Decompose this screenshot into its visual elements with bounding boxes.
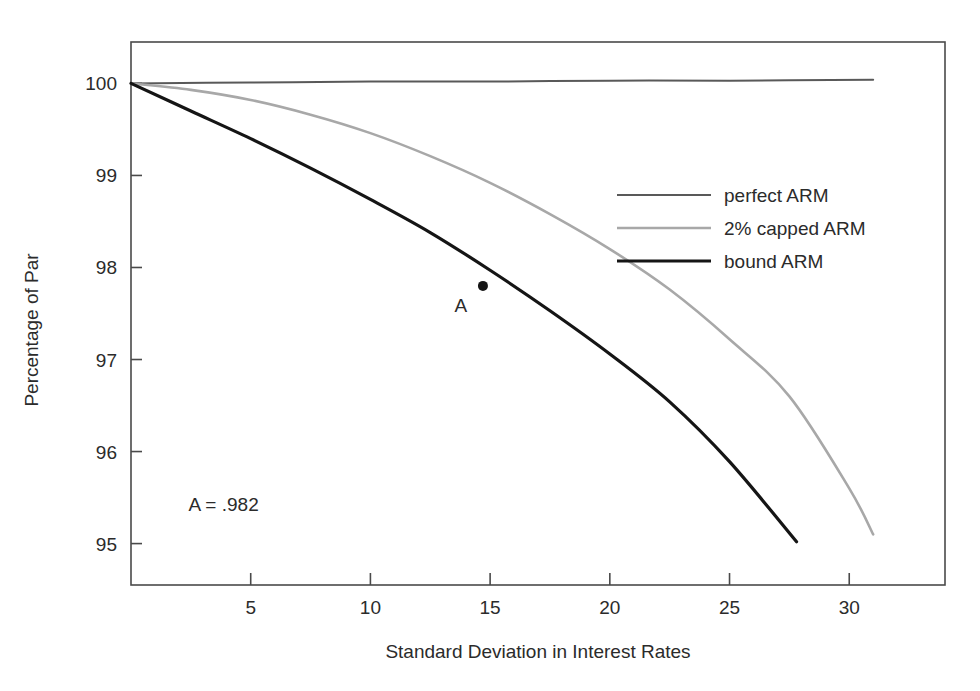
x-axis-title: Standard Deviation in Interest Rates xyxy=(385,641,690,662)
x-tick-label: 30 xyxy=(839,597,860,618)
x-tick-label: 20 xyxy=(599,597,620,618)
y-tick-label: 98 xyxy=(96,257,117,278)
y-axis-title: Percentage of Par xyxy=(21,253,42,407)
x-tick-label: 15 xyxy=(480,597,501,618)
y-tick-label: 99 xyxy=(96,165,117,186)
x-tick-label: 10 xyxy=(360,597,381,618)
legend-label: bound ARM xyxy=(724,251,823,272)
legend-label: 2% capped ARM xyxy=(724,218,866,239)
y-tick-label: 100 xyxy=(85,73,117,94)
x-tick-label: 5 xyxy=(245,597,256,618)
x-tick-label: 25 xyxy=(719,597,740,618)
chart-plot-area: 9596979899100 51015202530 AA = .982 perf… xyxy=(0,0,980,691)
legend-label: perfect ARM xyxy=(724,185,829,206)
a-value-note-label: A = .982 xyxy=(188,494,258,515)
point-a-label: A xyxy=(455,295,468,316)
y-tick-label: 96 xyxy=(96,442,117,463)
y-tick-label: 95 xyxy=(96,534,117,555)
figure-background xyxy=(0,0,980,691)
chart-figure: 9596979899100 51015202530 AA = .982 perf… xyxy=(0,0,980,691)
y-tick-label: 97 xyxy=(96,350,117,371)
data-point-marker xyxy=(478,281,488,291)
